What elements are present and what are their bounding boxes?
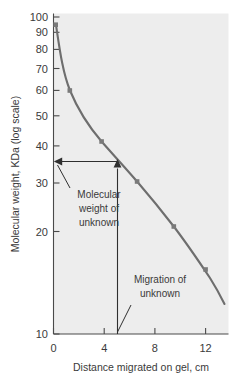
data-point (68, 88, 73, 93)
x-tick-label: 4 (101, 342, 107, 354)
data-point (99, 139, 104, 144)
x-axis-tick-labels: 0 4 8 12 (50, 342, 211, 354)
data-point (203, 267, 208, 272)
data-point (172, 224, 177, 229)
annotation-line: Migration of (134, 274, 186, 285)
y-tick-label: 100 (30, 11, 48, 23)
data-point (53, 22, 58, 27)
y-tick-label: 90 (36, 26, 48, 38)
y-axis-tick-labels: 100 90 80 70 60 50 40 30 20 10 (30, 11, 48, 340)
data-point (135, 179, 140, 184)
x-axis-title: Distance migrated on gel, cm (73, 361, 209, 373)
y-tick-label: 10 (36, 328, 48, 340)
annotation-line: Molecular (77, 189, 121, 200)
y-tick-label: 40 (36, 140, 48, 152)
y-tick-label: 30 (36, 177, 48, 189)
annotation-line: unknown (79, 217, 119, 228)
y-axis-title: Molecular weight, KDa (log scale) (9, 96, 21, 252)
y-tick-label: 80 (36, 43, 48, 55)
x-tick-label: 12 (199, 342, 211, 354)
annotation-line: weight of (78, 203, 119, 214)
x-tick-label: 8 (152, 342, 158, 354)
y-tick-label: 20 (36, 226, 48, 238)
y-tick-label: 70 (36, 63, 48, 75)
molecular-weight-of-unknown-annotation: Molecular weight of unknown (77, 189, 121, 228)
annotation-line: unknown (140, 288, 180, 299)
plot-area-background (54, 14, 229, 335)
chart-svg: 100 90 80 70 60 50 40 30 20 10 0 4 8 12 … (0, 0, 240, 378)
y-tick-label: 50 (36, 110, 48, 122)
y-tick-label: 60 (36, 84, 48, 96)
x-tick-label: 0 (50, 342, 56, 354)
molecular-weight-standard-curve-figure: 100 90 80 70 60 50 40 30 20 10 0 4 8 12 … (0, 0, 240, 378)
